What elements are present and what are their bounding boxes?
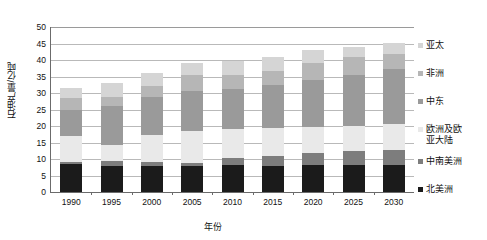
gridline: [51, 27, 414, 28]
bar-segment[interactable]: [141, 135, 163, 162]
bar-segment[interactable]: [60, 162, 82, 163]
y-tick-label: 40: [20, 56, 46, 64]
x-tick-mark: [91, 192, 92, 195]
bar-segment[interactable]: [181, 91, 203, 131]
bar-segment[interactable]: [343, 151, 365, 165]
bar-segment[interactable]: [343, 165, 365, 192]
legend-swatch: [418, 99, 423, 104]
legend-item[interactable]: 中东: [418, 96, 444, 107]
legend-label: 北美洲: [426, 184, 453, 195]
bar-segment[interactable]: [302, 127, 324, 153]
bar-segment[interactable]: [343, 126, 365, 151]
legend-item[interactable]: 亚太: [418, 40, 444, 51]
y-tick-label: 10: [20, 155, 46, 163]
legend-item[interactable]: 欧洲及欧 亚大陆: [418, 124, 462, 146]
bar-segment[interactable]: [181, 75, 203, 91]
y-tick-label: 45: [20, 40, 46, 48]
bar-segment[interactable]: [302, 165, 324, 192]
y-tick-label: 15: [20, 139, 46, 147]
bar-segment[interactable]: [383, 150, 405, 166]
bar-segment[interactable]: [302, 80, 324, 128]
legend-item[interactable]: 中南美洲: [418, 156, 462, 167]
x-tick-mark: [333, 192, 334, 195]
bar-segment[interactable]: [383, 69, 405, 124]
bar-segment[interactable]: [383, 165, 405, 192]
bar-segment[interactable]: [101, 145, 123, 160]
stacked-bar-chart: 石油产量/亿吨 05101520253035404550 19901995200…: [0, 0, 487, 240]
bar-segment[interactable]: [222, 75, 244, 90]
x-tick-label: 2005: [170, 197, 214, 207]
y-tick-label: 50: [20, 23, 46, 31]
legend-label: 非洲: [426, 68, 444, 79]
bar-segment[interactable]: [141, 97, 163, 134]
bar-segment[interactable]: [222, 129, 244, 157]
bar-segment[interactable]: [181, 131, 203, 163]
legend-label: 中南美洲: [426, 156, 462, 167]
bar-segment[interactable]: [383, 54, 405, 69]
plot-area: 199019952000200520102015202020252030: [50, 27, 414, 193]
bar-segment[interactable]: [101, 166, 123, 192]
x-tick-label: 2015: [251, 197, 295, 207]
legend-swatch: [418, 187, 423, 192]
legend-label: 中东: [426, 96, 444, 107]
bar-segment[interactable]: [181, 166, 203, 192]
bar-segment[interactable]: [222, 61, 244, 74]
bar-segment[interactable]: [141, 86, 163, 97]
bar-segment[interactable]: [60, 110, 82, 136]
bar-segment[interactable]: [262, 71, 284, 86]
bar-segment[interactable]: [302, 63, 324, 80]
bar-segment[interactable]: [262, 57, 284, 71]
bar-segment[interactable]: [101, 97, 123, 107]
bar-segment[interactable]: [262, 128, 284, 156]
bar-segment[interactable]: [101, 161, 123, 166]
x-tick-mark: [253, 192, 254, 195]
x-tick-mark: [172, 192, 173, 195]
bar-segment[interactable]: [222, 158, 244, 166]
bar-segment[interactable]: [222, 165, 244, 192]
bar-segment[interactable]: [60, 88, 82, 99]
bar-segment[interactable]: [101, 106, 123, 145]
x-tick-mark: [293, 192, 294, 195]
y-tick-label: 0: [20, 188, 46, 196]
bar-segment[interactable]: [343, 57, 365, 74]
bar-segment[interactable]: [181, 163, 203, 166]
bar-segment[interactable]: [383, 124, 405, 150]
bar-segment[interactable]: [141, 73, 163, 87]
bar-segment[interactable]: [302, 50, 324, 63]
bar-segment[interactable]: [383, 43, 405, 54]
x-tick-mark: [132, 192, 133, 195]
bar-segment[interactable]: [181, 63, 203, 76]
y-tick-label: 25: [20, 106, 46, 114]
x-tick-label: 1990: [49, 197, 93, 207]
bar-segment[interactable]: [141, 162, 163, 166]
legend-swatch: [418, 43, 423, 48]
bar-segment[interactable]: [262, 85, 284, 127]
legend-label: 欧洲及欧 亚大陆: [426, 124, 462, 146]
x-tick-label: 2020: [291, 197, 335, 207]
bar-segment[interactable]: [60, 164, 82, 192]
y-axis-tick-labels: 05101520253035404550: [18, 27, 46, 192]
bar-segment[interactable]: [343, 47, 365, 58]
y-tick-label: 5: [20, 172, 46, 180]
bar-segment[interactable]: [262, 166, 284, 192]
x-tick-mark: [374, 192, 375, 195]
legend-item[interactable]: 北美洲: [418, 184, 453, 195]
bar-segment[interactable]: [222, 89, 244, 129]
gridline: [51, 44, 414, 45]
y-tick-label: 35: [20, 73, 46, 81]
bar-segment[interactable]: [101, 83, 123, 96]
legend-swatch: [418, 159, 423, 164]
x-tick-label: 2000: [130, 197, 174, 207]
x-tick-mark: [212, 192, 213, 195]
legend-label: 亚太: [426, 40, 444, 51]
bar-segment[interactable]: [262, 156, 284, 166]
x-tick-label: 1995: [90, 197, 134, 207]
bar-segment[interactable]: [60, 98, 82, 109]
bar-segment[interactable]: [302, 153, 324, 165]
legend-item[interactable]: 非洲: [418, 68, 444, 79]
y-tick-label: 20: [20, 122, 46, 130]
bar-segment[interactable]: [141, 166, 163, 192]
bar-segment[interactable]: [343, 75, 365, 127]
x-axis-title: 年份: [188, 220, 238, 233]
bar-segment[interactable]: [60, 136, 82, 162]
